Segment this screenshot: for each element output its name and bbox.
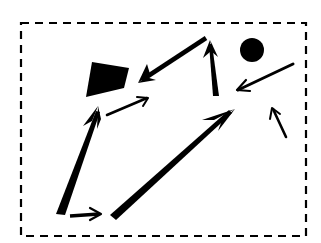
diagram-canvas xyxy=(0,0,321,243)
arrow-a4 xyxy=(107,97,148,115)
arrow-a3 xyxy=(237,64,293,91)
arrow-a1 xyxy=(138,38,206,83)
arrow-a2 xyxy=(203,40,219,96)
filled-circle xyxy=(240,38,264,62)
filled-quadrilateral xyxy=(86,62,129,97)
arrow-a6 xyxy=(56,106,101,215)
arrow-a7 xyxy=(70,208,101,220)
arrow-a8 xyxy=(110,109,235,220)
arrow-a5 xyxy=(270,108,286,137)
